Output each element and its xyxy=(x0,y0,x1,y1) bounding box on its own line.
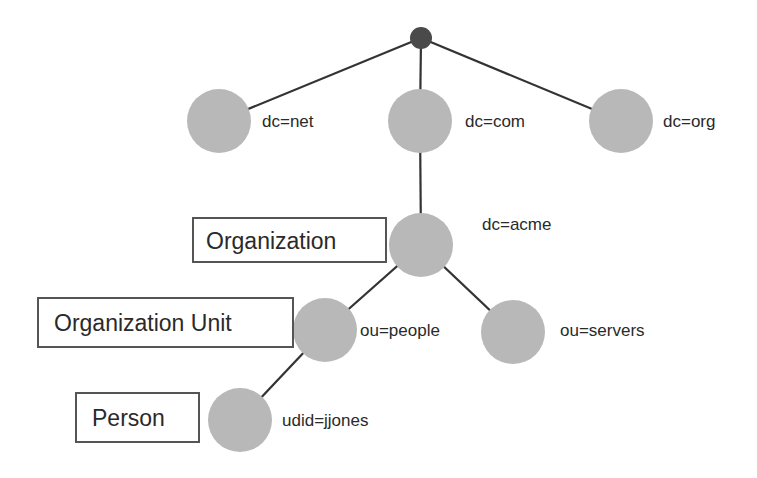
node-dc-org: dc=org xyxy=(589,89,715,153)
node-dc-net: dc=net xyxy=(187,89,314,153)
node-label-jjones: udid=jjones xyxy=(282,411,369,430)
node-circle xyxy=(388,89,452,153)
ldap-tree-diagram: dc=net dc=com dc=org dc=acme ou=people o… xyxy=(0,0,757,478)
node-circle xyxy=(187,89,251,153)
node-dc-acme: dc=acme xyxy=(389,213,551,277)
node-udid-jjones: udid=jjones xyxy=(208,388,369,452)
node-circle xyxy=(293,298,357,362)
type-box-organization-unit: Organization Unit xyxy=(38,298,293,347)
root-node xyxy=(410,27,432,49)
type-box-person: Person xyxy=(76,393,199,442)
node-circle xyxy=(589,89,653,153)
type-box-label-person: Person xyxy=(92,405,165,431)
type-box-organization: Organization xyxy=(193,218,386,262)
edge-root-org xyxy=(421,38,621,121)
node-label-people: ou=people xyxy=(360,321,440,340)
type-box-label-organization-unit: Organization Unit xyxy=(54,310,232,336)
node-label-com: dc=com xyxy=(465,112,525,131)
node-ou-people: ou=people xyxy=(293,298,440,362)
node-ou-servers: ou=servers xyxy=(481,300,645,364)
node-circle xyxy=(389,213,453,277)
node-label-servers: ou=servers xyxy=(560,321,645,340)
node-label-org: dc=org xyxy=(663,112,715,131)
type-box-label-organization: Organization xyxy=(206,228,336,254)
node-label-acme: dc=acme xyxy=(482,215,551,234)
node-circle xyxy=(481,300,545,364)
node-label-net: dc=net xyxy=(262,112,314,131)
node-dc-com: dc=com xyxy=(388,89,525,153)
node-circle xyxy=(208,388,272,452)
